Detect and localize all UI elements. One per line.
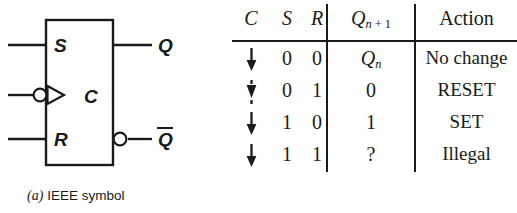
pin-label-r: R [54, 130, 68, 149]
falling-edge-arrow-icon [245, 48, 258, 72]
inversion-bubble-c [34, 89, 47, 102]
caption-a-label: (a) [27, 188, 43, 203]
falling-edge-arrow-icon [245, 144, 258, 168]
pin-label-c: C [84, 87, 98, 106]
cell-action-row-0: No change [416, 48, 517, 67]
cell-action-row-2: SET [416, 112, 517, 131]
column-header-q-next: Qn + 1 [328, 8, 414, 31]
cell-action-row-3: Illegal [416, 144, 517, 163]
panel-ieee-symbol: S C R Q Q (a)IEEE symbol [0, 0, 230, 213]
caption-panel-a: (a)IEEE symbol [27, 188, 125, 204]
panel-truth-table: C S R Qn + 1 Action 0 0 Qn No change 0 1… [230, 0, 517, 213]
falling-edge-arrow-icon [245, 80, 258, 104]
pin-label-s: S [54, 36, 67, 55]
cell-q-next-row-0-base: Q [361, 47, 375, 69]
table-header-rule [232, 40, 517, 42]
cell-q-next-row-3: ? [328, 144, 414, 164]
cell-q-next-row-0-sub: n [375, 57, 381, 71]
falling-edge-arrow-icon [245, 112, 258, 136]
dynamic-input-triangle-c [48, 86, 65, 104]
caption-a-text: IEEE symbol [47, 188, 124, 203]
cell-q-next-row-0: Qn [328, 48, 414, 71]
output-label-qbar: Q [158, 130, 173, 149]
cell-q-next-row-1: 0 [328, 80, 414, 100]
inversion-bubble-qbar [114, 133, 127, 146]
column-header-q-base: Q [351, 7, 365, 29]
column-header-action: Action [416, 8, 517, 28]
output-label-qbar-text: Q [158, 130, 173, 149]
column-header-q-sub-plus-one: + 1 [372, 17, 391, 31]
figure-sr-flip-flop: S C R Q Q (a)IEEE symbol C S R Qn + 1 Ac… [0, 0, 517, 213]
cell-q-next-row-2: 1 [328, 112, 414, 132]
output-label-q: Q [158, 36, 173, 55]
logic-symbol-drawing [0, 0, 230, 180]
cell-action-row-1: RESET [416, 80, 517, 99]
